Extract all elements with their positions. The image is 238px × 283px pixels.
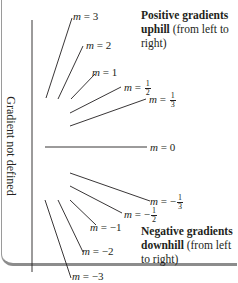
line-m-neg-half	[70, 186, 122, 213]
vertical-axis-label: Gradient not defined	[3, 86, 18, 206]
label-m-third: m = 13	[149, 92, 176, 109]
line-m-neg-2	[58, 200, 83, 252]
negative-gradients-note: Negative gradients downhill (from left t…	[141, 224, 237, 266]
label-m-half: m = 12	[124, 80, 151, 97]
label-m-neg-3: m = −3	[72, 270, 103, 282]
label-m-neg-2: m = −2	[82, 245, 113, 257]
line-m-third	[70, 99, 146, 126]
label-m-1: m = 1	[92, 66, 117, 78]
line-m-neg-3	[45, 200, 71, 278]
label-m-3: m = 3	[73, 10, 98, 22]
line-m-3	[46, 18, 72, 98]
line-m-neg-third	[70, 173, 150, 201]
label-m-neg-half: m = −12	[124, 207, 157, 224]
line-m-half	[70, 87, 121, 113]
label-m-2: m = 2	[86, 39, 111, 51]
positive-gradients-note: Positive gradients uphill (from left to …	[141, 8, 237, 50]
label-m-0: m = 0	[150, 141, 175, 153]
label-m-neg-1: m = −1	[90, 221, 121, 233]
